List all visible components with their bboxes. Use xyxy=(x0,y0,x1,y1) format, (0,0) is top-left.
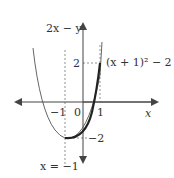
tick-x-1: 1 xyxy=(97,106,104,119)
asymptote-label: x = −1 xyxy=(40,160,79,173)
tick-y-neg2: −2 xyxy=(88,132,104,145)
parabola-thin xyxy=(33,42,102,138)
tick-y-2: 2 xyxy=(73,57,80,70)
graph-canvas: 2x − y x 2 −2 −1 0 1 (x + 1)² − 2 x = −1 xyxy=(0,0,174,178)
tick-x-0: 0 xyxy=(74,106,81,119)
tick-x-neg1: −1 xyxy=(50,106,66,119)
curve-label: (x + 1)² − 2 xyxy=(106,56,172,69)
y-axis-label: 2x − y xyxy=(46,22,82,35)
x-axis-label: x xyxy=(145,107,152,120)
